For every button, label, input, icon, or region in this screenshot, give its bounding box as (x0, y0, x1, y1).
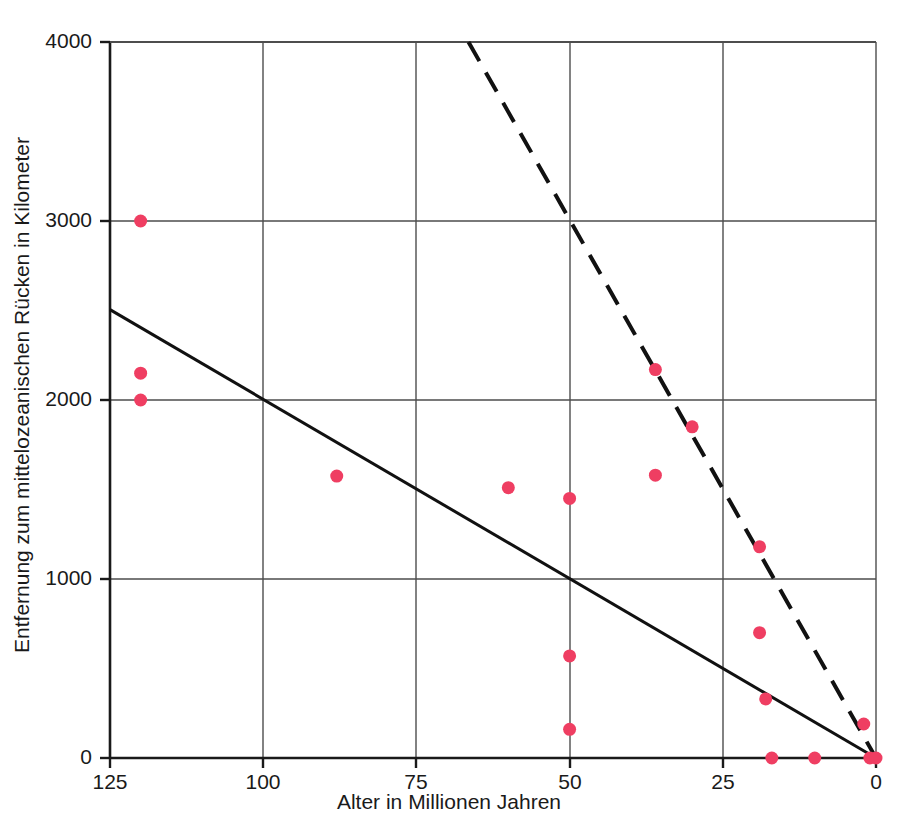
data-point (330, 470, 343, 483)
data-point (134, 215, 147, 228)
y-axis-ticks (100, 42, 110, 758)
scatter-plot-svg (0, 0, 898, 832)
x-axis-label: Alter in Millionen Jahren (0, 790, 898, 814)
x-axis-ticks (110, 758, 876, 768)
data-point (502, 481, 515, 494)
data-point (857, 717, 870, 730)
data-point (563, 723, 576, 736)
data-point (759, 692, 772, 705)
y-axis-label: Entfernung zum mittelozeanischen Rücken … (10, 137, 34, 653)
data-point (134, 394, 147, 407)
data-point (649, 469, 662, 482)
data-point (765, 752, 778, 765)
data-point (808, 752, 821, 765)
data-point (563, 492, 576, 505)
y-axis-label-container: Entfernung zum mittelozeanischen Rücken … (0, 0, 44, 790)
chart-figure: 4000 3000 2000 1000 0 125 100 75 50 25 0… (0, 0, 898, 832)
data-point (753, 540, 766, 553)
data-point (563, 649, 576, 662)
data-point (870, 752, 883, 765)
data-point (753, 626, 766, 639)
data-point (686, 420, 699, 433)
data-point (649, 363, 662, 376)
data-point (134, 367, 147, 380)
